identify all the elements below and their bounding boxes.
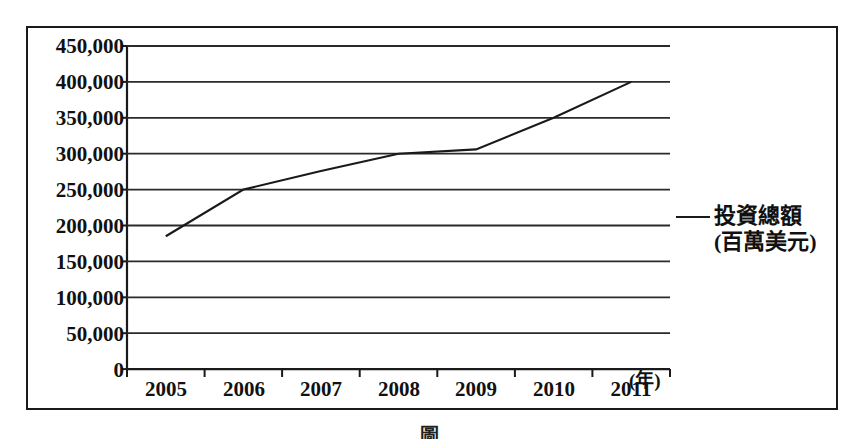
y-axis-tick-labels: 450,000 400,000 350,000 300,000 250,000 … <box>28 0 124 400</box>
legend-label-line1: 投資總額 <box>714 203 817 229</box>
y-tick-350000: 350,000 <box>56 108 124 129</box>
y-tick-50000: 50,000 <box>66 324 124 345</box>
x-tick-2005: 2005 <box>126 379 206 400</box>
data-series-line <box>166 82 631 236</box>
y-tick-0: 0 <box>114 360 125 381</box>
y-tick-400000: 400,000 <box>56 72 124 93</box>
x-tick-2006: 2006 <box>204 379 284 400</box>
x-tick-marks <box>127 369 670 377</box>
chart-legend: 投資總額 (百萬美元) <box>676 203 836 255</box>
y-tick-250000: 250,000 <box>56 180 124 201</box>
legend-line-swatch-icon <box>676 216 710 218</box>
y-tick-200000: 200,000 <box>56 216 124 237</box>
x-tick-2007: 2007 <box>281 379 361 400</box>
gridlines <box>127 46 670 333</box>
x-axis-unit-label: (年) <box>629 371 661 390</box>
x-tick-2009: 2009 <box>436 379 516 400</box>
y-tick-100000: 100,000 <box>56 288 124 309</box>
figure-caption: 圖 <box>0 424 859 439</box>
legend-label-line2: (百萬美元) <box>714 229 817 255</box>
y-tick-150000: 150,000 <box>56 252 124 273</box>
y-tick-300000: 300,000 <box>56 144 124 165</box>
x-tick-2010: 2010 <box>514 379 594 400</box>
x-tick-2008: 2008 <box>359 379 439 400</box>
legend-label: 投資總額 (百萬美元) <box>714 203 817 255</box>
line-chart: 450,000 400,000 350,000 300,000 250,000 … <box>0 0 859 439</box>
y-tick-450000: 450,000 <box>56 36 124 57</box>
